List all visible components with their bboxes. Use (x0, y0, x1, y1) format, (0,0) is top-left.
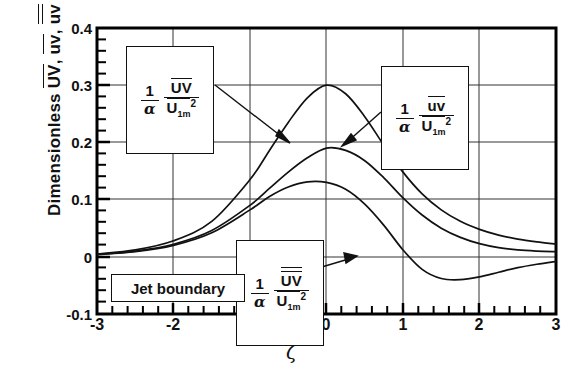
denominator-U-text: U1m (167, 100, 191, 119)
numerator-one: 1 (143, 83, 157, 100)
y-major-ticks (97, 85, 110, 257)
denominator-U-text-2: U1m (422, 118, 446, 137)
jet-boundary-text: Jet boundary (131, 280, 225, 297)
denominator-U-base: U (167, 99, 178, 116)
formula-UV: 1 α UV U1m2 (141, 80, 199, 119)
jet-boundary-label[interactable]: Jet boundary (111, 274, 245, 302)
numerator-uv: uv (425, 98, 449, 115)
callout-UV[interactable]: 1 α UV U1m2 (126, 46, 214, 154)
numerator-UV-dots-text: UV (281, 273, 302, 289)
fraction-one-alpha-3: 1 α (251, 276, 269, 311)
denominator-U1m2-3: U1m2 (274, 291, 309, 312)
denominator-U-sup-2: 2 (445, 116, 451, 127)
arrow-head-UV (276, 130, 290, 143)
denominator-U1m2: U1m2 (164, 98, 199, 119)
numerator-UV: UV (168, 80, 195, 97)
fraction-one-alpha: 1 α (141, 83, 159, 118)
numerator-UV-dots: UV (278, 273, 305, 290)
denominator-alpha: α (141, 101, 159, 118)
denominator-U-sub-3: 1m (287, 302, 300, 312)
fraction-UVdots-U2: UV U1m2 (274, 273, 309, 312)
denominator-alpha-2: α (396, 119, 414, 136)
formula-uv: 1 α uv U1m2 (396, 98, 454, 137)
denominator-U-text-3: U1m (277, 293, 301, 312)
numerator-one-2: 1 (398, 101, 412, 118)
numerator-UV-text: UV (171, 80, 192, 96)
callout-uv[interactable]: 1 α uv U1m2 (381, 66, 469, 170)
callout-UV-dots[interactable]: 1 α UV U1m2 (236, 240, 324, 346)
denominator-U-sub-2: 1m (432, 127, 445, 137)
denominator-U-base-2: U (422, 117, 433, 134)
denominator-U-base-3: U (277, 292, 288, 309)
numerator-uv-text: uv (428, 98, 446, 114)
denominator-U-sub: 1m (177, 109, 190, 119)
figure-container: Dimensionless UV, uv, uv 0.4 0.3 0.2 0.1… (0, 0, 583, 375)
fraction-uv-U2: uv U1m2 (419, 98, 454, 137)
fraction-one-alpha-2: 1 α (396, 101, 414, 136)
denominator-alpha-3: α (251, 294, 269, 311)
formula-UV-dots: 1 α UV U1m2 (251, 273, 309, 312)
denominator-U1m2-2: U1m2 (419, 116, 454, 137)
fraction-UV-U2: UV U1m2 (164, 80, 199, 119)
denominator-U-sup-3: 2 (300, 291, 306, 302)
denominator-U-sup: 2 (190, 98, 196, 109)
numerator-one-3: 1 (253, 276, 267, 293)
arrow-head-UV-dots (344, 253, 357, 263)
